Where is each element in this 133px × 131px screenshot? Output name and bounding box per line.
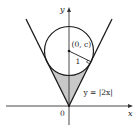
curve-label: y = |2x| [83,88,113,97]
center-label: (0, c) [72,40,92,49]
origin-label: 0 [60,109,65,118]
diagram-canvas: y x 0 (0, c) 1 y = |2x| [0,0,133,131]
origin-point [68,105,70,107]
y-axis-label: y [59,5,65,14]
radius-label: 1 [76,57,81,66]
y-axis-arrow-icon [67,7,71,12]
x-axis-arrow-icon [128,104,133,108]
x-axis-label: x [128,109,133,118]
